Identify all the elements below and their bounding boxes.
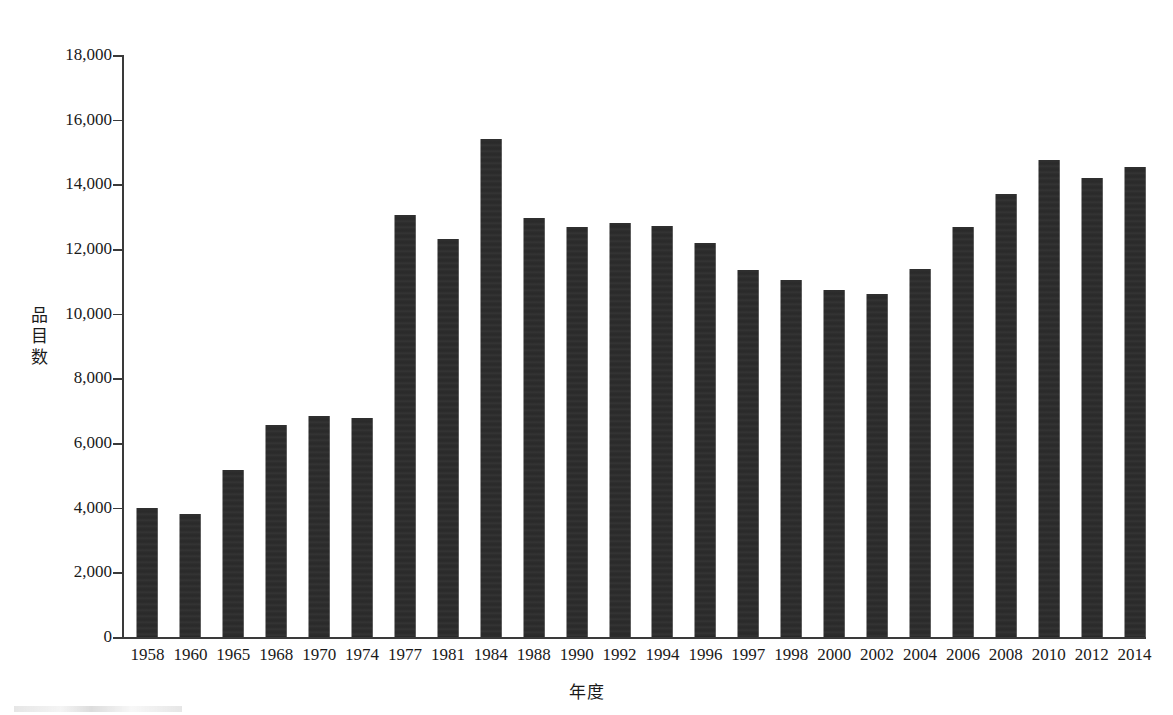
bar[interactable]: [352, 418, 373, 637]
bar[interactable]: [824, 290, 845, 637]
bar[interactable]: [523, 218, 544, 637]
bar[interactable]: [1081, 178, 1102, 637]
x-tick-label: 1990: [560, 645, 594, 665]
x-tick-label: 1981: [431, 645, 465, 665]
x-tick-label: 2010: [1032, 645, 1066, 665]
bar-slot[interactable]: [770, 55, 813, 637]
x-tick-label: 1984: [474, 645, 508, 665]
bar[interactable]: [309, 416, 330, 637]
bar[interactable]: [180, 514, 201, 637]
bar[interactable]: [738, 270, 759, 637]
bar-series: [122, 55, 1152, 637]
bar-slot[interactable]: [1027, 55, 1070, 637]
y-tick-mark: [113, 184, 122, 186]
bar[interactable]: [437, 239, 458, 637]
bar-slot[interactable]: [512, 55, 555, 637]
bar-slot[interactable]: [384, 55, 427, 637]
y-tick-mark: [113, 378, 122, 380]
bar[interactable]: [1038, 160, 1059, 637]
x-tick-label: 2014: [1118, 645, 1152, 665]
bar-slot[interactable]: [298, 55, 341, 637]
bar-slot[interactable]: [899, 55, 942, 637]
x-tick-label: 1958: [130, 645, 164, 665]
y-tick-mark: [113, 443, 122, 445]
bar[interactable]: [266, 425, 287, 637]
y-tick-label: 0: [104, 627, 113, 647]
bar[interactable]: [781, 280, 802, 637]
y-tick-label: 10,000: [65, 304, 112, 324]
x-tick-label: 2008: [989, 645, 1023, 665]
bar-slot[interactable]: [426, 55, 469, 637]
bar-slot[interactable]: [984, 55, 1027, 637]
y-tick-label: 14,000: [65, 174, 112, 194]
y-tick-mark: [113, 120, 122, 122]
y-tick-label: 16,000: [65, 110, 112, 130]
x-tick-label: 2004: [903, 645, 937, 665]
x-tick-label: 2000: [817, 645, 851, 665]
bar-slot[interactable]: [469, 55, 512, 637]
bar[interactable]: [566, 227, 587, 637]
bar-slot[interactable]: [169, 55, 212, 637]
x-tick-label: 1994: [645, 645, 679, 665]
bar-slot[interactable]: [555, 55, 598, 637]
bar[interactable]: [952, 227, 973, 637]
y-tick-mark: [113, 249, 122, 251]
y-tick-mark: [113, 55, 122, 57]
x-tick-label: 1968: [259, 645, 293, 665]
scan-artifact: [14, 706, 182, 712]
y-axis-title: 品目数: [26, 305, 52, 368]
y-tick-label: 4,000: [74, 498, 112, 518]
x-tick-label: 2012: [1075, 645, 1109, 665]
bar-slot[interactable]: [813, 55, 856, 637]
bar-slot[interactable]: [641, 55, 684, 637]
x-axis-tick-labels: 1958196019651968197019741977198119841988…: [122, 645, 1152, 669]
y-tick-mark: [113, 572, 122, 574]
x-axis-title: 年度: [0, 678, 1173, 703]
x-tick-label: 1997: [731, 645, 765, 665]
bar[interactable]: [137, 508, 158, 637]
x-tick-label: 1974: [345, 645, 379, 665]
bar-slot[interactable]: [126, 55, 169, 637]
plot-area: 02,0004,0006,0008,00010,00012,00014,0001…: [122, 55, 1152, 637]
bar-slot[interactable]: [856, 55, 899, 637]
bar[interactable]: [995, 194, 1016, 637]
y-tick-mark: [113, 508, 122, 510]
bar-slot[interactable]: [1070, 55, 1113, 637]
x-tick-label: 1996: [688, 645, 722, 665]
bar[interactable]: [1124, 167, 1145, 637]
x-tick-label: 1960: [173, 645, 207, 665]
bar-chart-figure: 品目数 02,0004,0006,0008,00010,00012,00014,…: [0, 0, 1173, 715]
y-tick-mark: [113, 637, 122, 639]
x-tick-label: 1992: [603, 645, 637, 665]
bar[interactable]: [223, 470, 244, 637]
y-tick-label: 18,000: [65, 45, 112, 65]
y-tick-label: 8,000: [74, 368, 112, 388]
y-tick-label: 2,000: [74, 562, 112, 582]
bar-slot[interactable]: [341, 55, 384, 637]
x-tick-label: 1970: [302, 645, 336, 665]
x-tick-label: 1965: [216, 645, 250, 665]
bar[interactable]: [652, 226, 673, 637]
bar[interactable]: [695, 243, 716, 637]
bar[interactable]: [609, 223, 630, 638]
bar-slot[interactable]: [255, 55, 298, 637]
x-tick-label: 1977: [388, 645, 422, 665]
x-tick-label: 2006: [946, 645, 980, 665]
bar[interactable]: [480, 139, 501, 637]
x-tick-label: 1988: [517, 645, 551, 665]
bar[interactable]: [867, 294, 888, 637]
y-tick-label: 12,000: [65, 239, 112, 259]
x-axis-line: [122, 637, 1146, 639]
bar[interactable]: [909, 269, 930, 637]
bar-slot[interactable]: [1113, 55, 1156, 637]
y-tick-label: 6,000: [74, 433, 112, 453]
y-tick-mark: [113, 314, 122, 316]
x-tick-label: 2002: [860, 645, 894, 665]
bar-slot[interactable]: [212, 55, 255, 637]
bar-slot[interactable]: [727, 55, 770, 637]
bar-slot[interactable]: [684, 55, 727, 637]
x-tick-label: 1998: [774, 645, 808, 665]
bar-slot[interactable]: [941, 55, 984, 637]
bar[interactable]: [394, 215, 415, 637]
bar-slot[interactable]: [598, 55, 641, 637]
